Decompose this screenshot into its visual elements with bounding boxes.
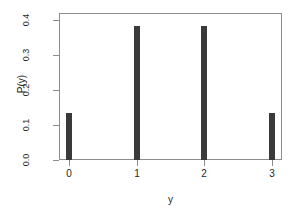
x-axis-tick [272,160,273,166]
x-axis-tick-label: 2 [192,168,216,180]
probability-mass-function-chart: 0.00.10.20.30.40123 P(y) y [0,0,297,218]
bar-spike [269,113,275,160]
x-axis-tick [69,160,70,166]
x-axis-tick [137,160,138,166]
x-axis-tick [204,160,205,166]
y-axis-tick [53,90,59,91]
bar-spike [201,26,207,160]
x-axis-title: y [59,194,282,206]
y-axis-title: P(y) [16,52,28,116]
y-axis-tick [53,160,59,161]
y-axis-tick [53,20,59,21]
x-axis-tick-label: 0 [57,168,81,180]
y-axis-tick [53,125,59,126]
bars-layer [59,13,282,160]
x-axis-tick-label: 1 [125,168,149,180]
y-axis-tick-label: 0.0 [21,140,31,180]
bar-spike [66,113,72,160]
bar-spike [134,26,140,160]
x-axis-tick-label: 3 [260,168,284,180]
y-axis-tick [53,55,59,56]
y-axis-tick-label: 0.4 [21,0,31,40]
